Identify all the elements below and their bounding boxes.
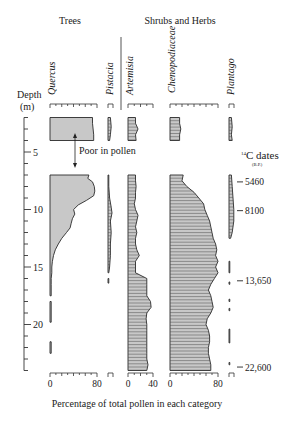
depth-tick-label: 10: [33, 204, 43, 215]
series-curves: [50, 118, 234, 371]
c14-date-label: 13,650: [245, 276, 271, 286]
c14-header-sub: (B.P.): [252, 162, 263, 167]
curve-pistacia: [108, 118, 112, 284]
c14-date-label: 8100: [245, 206, 264, 216]
taxon-label-artemisia: Artemisia: [124, 56, 135, 96]
x-axis-label: Percentage of total pollen in each categ…: [52, 398, 222, 409]
chenopodiaceae-axis-max: 80: [213, 379, 223, 389]
depth-tick-label: 15: [33, 262, 43, 273]
curve-plantago: [229, 118, 234, 365]
group-label-trees: Trees: [59, 15, 81, 26]
taxon-label-chenopodiaceae: Chenopodiaceae: [166, 25, 177, 93]
c14-header: 14C dates: [241, 149, 279, 161]
c14-date-label: 5460: [245, 177, 264, 187]
top-scale-bars: [50, 104, 234, 108]
group-label-shrubs-and-herbs: Shrubs and Herbs: [144, 15, 215, 26]
depth-label-line2: (m): [20, 101, 34, 113]
taxon-labels: QuercusPistaciaArtemisiaChenopodiaceaePl…: [46, 25, 236, 96]
artemisia-axis-min: 0: [126, 379, 131, 389]
c14-dates: 14C dates (B.P.) 5460810013,65022,600: [237, 149, 279, 373]
depth-axis-label: Depth (m): [17, 89, 41, 113]
artemisia-axis-max: 40: [148, 379, 158, 389]
group-labels: TreesShrubs and Herbs: [59, 15, 216, 26]
quercus-axis-max: 80: [92, 379, 102, 389]
depth-tick-label: 5: [33, 147, 38, 158]
taxon-label-plantago: Plantago: [225, 58, 236, 96]
pollen-diagram: TreesShrubs and Herbs QuercusPistaciaArt…: [0, 0, 283, 426]
poor-in-pollen-label: Poor in pollen: [79, 145, 136, 156]
taxon-label-pistacia: Pistacia: [104, 62, 115, 96]
curve-chenopodiaceae: [170, 118, 218, 371]
depth-tick-label: 20: [33, 319, 43, 330]
chenopodiaceae-axis-min: 0: [168, 379, 173, 389]
depth-label-line1: Depth: [17, 89, 41, 100]
quercus-axis-min: 0: [48, 379, 53, 389]
c14-date-label: 22,600: [245, 363, 271, 373]
bottom-scale-bars: 080040080: [48, 373, 234, 389]
taxon-label-quercus: Quercus: [46, 61, 57, 95]
depth-axis: 5101520: [24, 118, 43, 371]
